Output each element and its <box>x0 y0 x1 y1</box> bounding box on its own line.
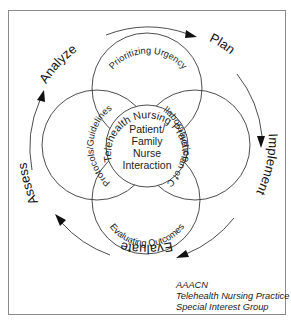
credit-line-practice: Telehealth Nursing Practice <box>176 291 289 302</box>
credit-block: AAACN Telehealth Nursing Practice Specia… <box>176 280 289 313</box>
arrow-evaluate-to-assess <box>61 222 110 255</box>
phase-assess-label: Assess <box>15 161 41 207</box>
arrow-analyze-to-plan <box>106 27 188 35</box>
arrow-implement-to-evaluate <box>186 218 234 254</box>
nursing-process-diagram: Prioritizing Urgency Collaborative Plan … <box>0 0 291 322</box>
arrowhead-icon <box>257 136 265 148</box>
phase-implement-label: Implement <box>253 133 281 198</box>
phase-plan-label: Plan <box>207 30 238 57</box>
arrowhead-icon <box>55 214 66 226</box>
phase-analyze-label: Analyze <box>36 41 79 86</box>
core-line-4: Interaction <box>122 159 171 171</box>
core-line-3: Nurse <box>133 147 161 159</box>
arrowhead-icon <box>176 250 189 258</box>
core-line-2: Family <box>132 135 164 147</box>
credit-line-org: AAACN <box>176 280 289 291</box>
core-line-1: Patient/ <box>129 123 165 135</box>
credit-line-group: Special Interest Group <box>176 302 289 313</box>
arrow-assess-to-analyze <box>30 100 40 170</box>
arrowhead-icon <box>185 30 197 38</box>
petal-top-label: Prioritizing Urgency <box>107 45 189 71</box>
arrow-plan-to-implement <box>237 74 262 136</box>
arrowhead-icon <box>37 90 45 102</box>
